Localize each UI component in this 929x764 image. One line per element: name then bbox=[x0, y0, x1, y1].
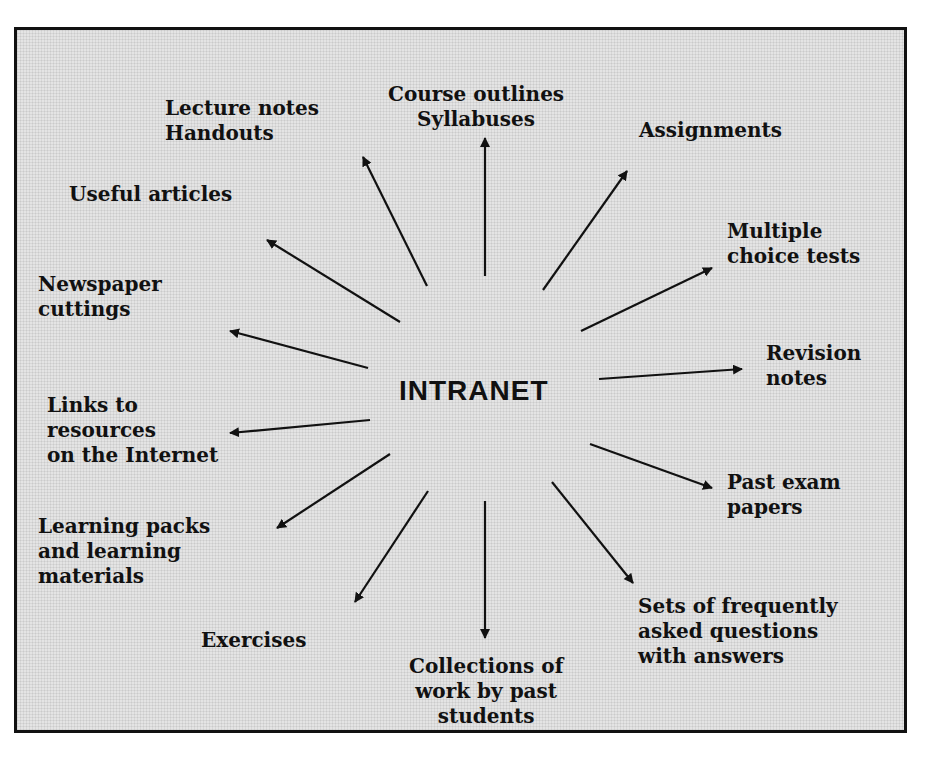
node-course-outlines: Course outlines Syllabuses bbox=[388, 82, 564, 132]
node-collections: Collections of work by past students bbox=[409, 654, 563, 729]
node-exercises: Exercises bbox=[201, 628, 306, 653]
node-newspaper: Newspaper cuttings bbox=[38, 272, 162, 322]
node-assignments: Assignments bbox=[639, 118, 782, 143]
node-learning-packs: Learning packs and learning materials bbox=[38, 514, 210, 589]
arrow-useful-articles bbox=[267, 240, 400, 322]
node-useful-articles: Useful articles bbox=[69, 182, 232, 207]
node-links: Links to resources on the Internet bbox=[47, 393, 218, 468]
arrow-newspaper bbox=[230, 331, 368, 368]
arrow-links bbox=[230, 420, 370, 433]
arrow-faq bbox=[552, 482, 633, 583]
node-revision-notes: Revision notes bbox=[766, 341, 861, 391]
node-faq: Sets of frequently asked questions with … bbox=[638, 594, 838, 669]
arrow-multiple-choice bbox=[581, 268, 712, 331]
arrow-assignments bbox=[543, 171, 627, 290]
node-lecture-notes: Lecture notes Handouts bbox=[165, 96, 319, 146]
arrow-exercises bbox=[355, 491, 428, 602]
intranet-hub: INTRANET bbox=[399, 375, 549, 407]
arrow-past-exam bbox=[590, 444, 712, 488]
node-past-exam: Past exam papers bbox=[727, 470, 841, 520]
arrow-lecture-notes bbox=[363, 157, 427, 286]
arrow-learning-packs bbox=[277, 454, 390, 528]
arrow-revision-notes bbox=[599, 369, 742, 379]
node-multiple-choice: Multiple choice tests bbox=[727, 219, 860, 269]
